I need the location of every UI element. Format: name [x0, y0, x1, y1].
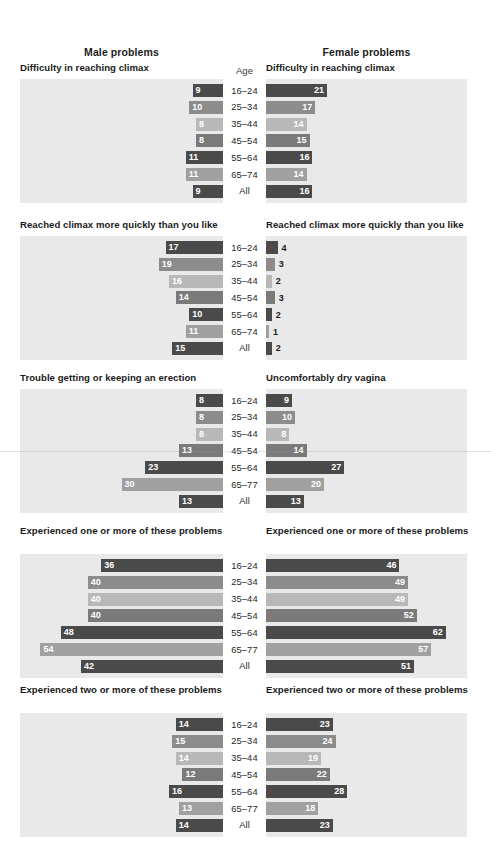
female-bar: 18	[266, 802, 318, 815]
chart-row: 4035–4449	[20, 593, 467, 606]
male-bar-value: 40	[91, 578, 101, 587]
panel-5-plot: 1416–24231525–34241435–44191245–54221655…	[20, 713, 467, 837]
male-bar-value: 40	[91, 595, 101, 604]
panel-3-female-title: Uncomfortably dry vagina	[266, 372, 471, 384]
female-bar-value: 52	[404, 611, 414, 620]
female-bar-value: 28	[334, 787, 344, 796]
chart-row: 835–448	[20, 428, 467, 441]
male-bar-value: 54	[43, 645, 53, 654]
age-label: 65–77	[223, 478, 266, 491]
age-label: 35–44	[223, 428, 266, 441]
male-bar-value: 11	[189, 170, 199, 179]
female-bar-value: 2	[276, 310, 281, 319]
male-bar-value: 13	[182, 804, 192, 813]
female-bar: 2	[266, 275, 272, 288]
male-bar-value: 8	[199, 120, 204, 129]
age-label: 16–24	[223, 241, 266, 254]
female-bar-value: 13	[291, 497, 301, 506]
chart-row: 14All23	[20, 819, 467, 832]
chart-row: 1416–2423	[20, 718, 467, 731]
female-bar: 52	[266, 609, 417, 622]
female-bar: 23	[266, 718, 333, 731]
female-bar: 19	[266, 752, 321, 765]
age-label: 16–24	[223, 394, 266, 407]
male-bar: 8	[196, 411, 223, 424]
age-label: 35–44	[223, 752, 266, 765]
male-bar: 40	[88, 609, 223, 622]
age-label: 25–34	[223, 576, 266, 589]
chart-row: 1925–343	[20, 258, 467, 271]
female-bar: 24	[266, 735, 336, 748]
female-bar: 4	[266, 241, 278, 254]
panel-2-male-title: Reached climax more quickly than you lik…	[20, 219, 225, 231]
male-bar-value: 40	[91, 611, 101, 620]
chart-row: 9All16	[20, 185, 467, 198]
panel-4: Experienced one or more of these problem…	[0, 525, 491, 678]
male-bar-value: 48	[64, 628, 74, 637]
infographic-sheet: Male problems Female problems Difficulty…	[0, 0, 491, 866]
male-bar: 40	[88, 576, 223, 589]
male-bar: 16	[169, 785, 223, 798]
male-bar-value: 15	[175, 344, 185, 353]
male-bar: 16	[169, 275, 223, 288]
male-bar-value: 11	[189, 153, 199, 162]
chart-row: 1635–442	[20, 275, 467, 288]
chart-row: 1445–543	[20, 291, 467, 304]
chart-row: 3065–7720	[20, 478, 467, 491]
female-bar-value: 9	[284, 396, 289, 405]
chart-row: 13All13	[20, 495, 467, 508]
chart-row: 1716–244	[20, 241, 467, 254]
female-bar: 2	[266, 308, 272, 321]
chart-row: 1165–741	[20, 325, 467, 338]
female-bar-value: 1	[273, 327, 278, 336]
male-bar-value: 8	[199, 136, 204, 145]
male-bar: 36	[101, 559, 223, 572]
age-label: 65–74	[223, 325, 266, 338]
panel-5-male-title: Experienced two or more of these problem…	[20, 684, 225, 696]
male-bar: 23	[145, 461, 223, 474]
panel-4-female-title: Experienced one or more of these problem…	[266, 525, 471, 537]
page-fold-line	[0, 451, 491, 452]
male-bar: 8	[196, 394, 223, 407]
age-label: All	[223, 495, 266, 508]
age-label: 55–64	[223, 151, 266, 164]
male-bar: 19	[159, 258, 223, 271]
male-bar-value: 9	[196, 86, 201, 95]
chart-row: 4045–5452	[20, 609, 467, 622]
female-bar-value: 49	[395, 578, 405, 587]
chart-row: 2355–6427	[20, 461, 467, 474]
female-bar-value: 14	[294, 170, 304, 179]
chart-row: 1025–3417	[20, 101, 467, 114]
age-label: 45–54	[223, 609, 266, 622]
female-bar: 46	[266, 559, 399, 572]
female-bar: 8	[266, 428, 289, 441]
chart-row: 15All2	[20, 342, 467, 355]
female-bar-value: 10	[282, 413, 292, 422]
chart-row: 1055–642	[20, 308, 467, 321]
male-bar: 8	[196, 134, 223, 147]
male-bar: 14	[176, 291, 223, 304]
female-bar-value: 46	[386, 561, 396, 570]
male-bar: 42	[81, 660, 223, 673]
female-bar: 14	[266, 168, 307, 181]
female-bar: 1	[266, 325, 269, 338]
male-bar-value: 10	[192, 310, 202, 319]
column-headers: Male problems Female problems	[0, 46, 491, 60]
age-label: All	[223, 342, 266, 355]
age-label: All	[223, 819, 266, 832]
male-bar-value: 12	[185, 770, 195, 779]
male-bar-value: 9	[196, 187, 201, 196]
female-bar-value: 22	[317, 770, 327, 779]
panel-1: Difficulty in reaching climaxDifficulty …	[0, 62, 491, 203]
male-bar-value: 8	[199, 413, 204, 422]
female-bar-value: 8	[281, 430, 286, 439]
male-bar: 15	[172, 735, 223, 748]
male-problems-header: Male problems	[20, 46, 223, 58]
female-bar-value: 21	[314, 86, 324, 95]
age-label: 25–34	[223, 258, 266, 271]
chart-row: 4855–6462	[20, 626, 467, 639]
age-label: 65–77	[223, 802, 266, 815]
panel-5-female-title: Experienced two or more of these problem…	[266, 684, 471, 696]
panel-2-plot: 1716–2441925–3431635–4421445–5431055–642…	[20, 236, 467, 360]
age-label: 25–34	[223, 411, 266, 424]
